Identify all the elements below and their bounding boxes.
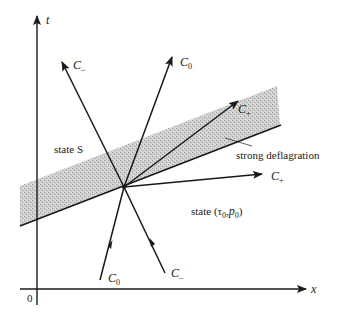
t-axis-label: t (46, 13, 50, 27)
c-minus-lower-arrowhead (150, 238, 156, 247)
state-s-label: state S (54, 143, 83, 155)
characteristics-diagram: t x 0 C– C0 C+ C+ C0 C– state S strong d… (0, 0, 342, 325)
origin-label: 0 (27, 292, 33, 304)
c-zero-lower-line (100, 187, 124, 280)
c-zero-upper-label: C0 (180, 55, 192, 71)
state-tau0-p0-label: state (τ0,p0) (191, 204, 243, 220)
strong-deflagration-label: strong deflagration (236, 149, 320, 161)
c-plus-right-label: C+ (271, 169, 284, 185)
c-minus-upper-label: C– (73, 58, 86, 74)
c-zero-lower-label: C0 (108, 271, 120, 287)
c-minus-lower-label: C– (171, 266, 184, 282)
intersection-point (122, 185, 126, 189)
x-axis-label: x (310, 282, 317, 296)
c-minus-lower-line (124, 187, 165, 273)
